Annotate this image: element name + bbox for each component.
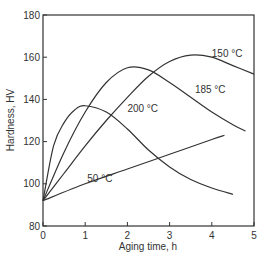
x-tick-label: 2 xyxy=(125,230,131,241)
x-axis-ticks: 012345 xyxy=(40,222,257,241)
curve-label: 185 °C xyxy=(195,84,226,95)
x-tick-label: 5 xyxy=(251,230,257,241)
curve-label: 200 °C xyxy=(127,103,158,114)
x-tick-label: 1 xyxy=(82,230,88,241)
y-tick-label: 100 xyxy=(23,178,40,189)
curve-label: 50 °C xyxy=(87,173,112,184)
x-tick-label: 4 xyxy=(209,230,215,241)
y-tick-label: 160 xyxy=(23,52,40,63)
y-tick-label: 140 xyxy=(23,94,40,105)
x-axis-title: Aging time, h xyxy=(119,241,177,252)
y-tick-label: 120 xyxy=(23,136,40,147)
y-tick-label: 180 xyxy=(23,10,40,21)
y-tick-label: 80 xyxy=(29,221,41,232)
curves xyxy=(43,55,254,201)
curve-150c xyxy=(43,55,254,201)
hardness-aging-chart: 80100120140160180 012345 150 °C185 °C200… xyxy=(0,0,266,267)
plot-frame xyxy=(43,15,254,226)
curve-50c xyxy=(43,135,224,200)
curve-label: 150 °C xyxy=(212,48,243,59)
curve-200c xyxy=(43,106,233,201)
x-tick-label: 3 xyxy=(167,230,173,241)
y-axis-title: Hardness, HV xyxy=(5,89,16,152)
x-tick-label: 0 xyxy=(40,230,46,241)
